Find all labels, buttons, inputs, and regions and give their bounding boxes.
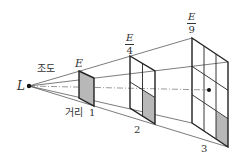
panel-1-illuminance: E [75,58,83,69]
panel-2-distance: 2 [134,125,140,135]
illuminance-label: 조도 [37,64,55,74]
panel-1-distance: 1 [89,108,95,118]
center-axis [29,86,210,90]
shaded-cell [143,90,156,125]
light-source-dot [27,84,31,88]
panel-1 [79,71,94,106]
panel-3-illuminance: E 9 [187,12,196,35]
panel-3-distance: 3 [201,144,207,154]
source-label: L [17,80,25,92]
shaded-cell [216,112,228,148]
inverse-square-diagram [0,0,243,163]
panel-2-illuminance: E 4 [125,33,134,56]
panel-2 [130,56,155,124]
center-point-dot [207,88,211,92]
panel-3 [192,38,228,147]
distance-label: 거리 [65,108,83,118]
